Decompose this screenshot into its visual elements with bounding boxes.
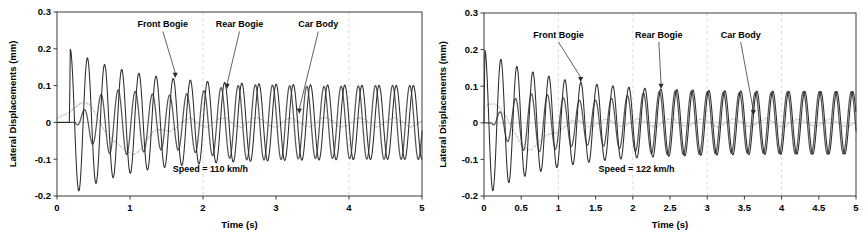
x-tick-label: 4 bbox=[346, 202, 352, 213]
front-bogie-callout-leader-line bbox=[163, 31, 175, 73]
x-tick-label: 5 bbox=[853, 202, 859, 213]
x-tick-label: 2.5 bbox=[663, 202, 677, 213]
x-tick-label: 4 bbox=[779, 202, 785, 213]
y-axis-title: Lateral Displacements (mm) bbox=[437, 41, 448, 168]
y-tick-label: 0.3 bbox=[38, 6, 51, 17]
y-tick-label: 0 bbox=[46, 117, 51, 128]
y-tick-label: 0 bbox=[473, 117, 478, 128]
front-bogie-callout-label: Front Bogie bbox=[533, 30, 584, 40]
front-bogie-callout-label: Front Bogie bbox=[138, 19, 189, 29]
y-axis-title: Lateral Displacements (mm) bbox=[7, 41, 18, 168]
chart-svg-right: 0.30.20.10-0.1-0.200.511.522.533.544.55T… bbox=[434, 0, 868, 245]
x-tick-label: 2 bbox=[200, 202, 205, 213]
x-tick-label: 0 bbox=[54, 202, 59, 213]
y-tick-label: -0.1 bbox=[35, 154, 52, 165]
front-bogie-callout-arrowhead-icon bbox=[173, 73, 178, 78]
front-bogie-callout-leader-line bbox=[558, 42, 580, 77]
x-tick-label: 2 bbox=[630, 202, 635, 213]
front-bogie-callout-arrowhead-icon bbox=[578, 77, 583, 82]
x-tick-label: 1 bbox=[127, 202, 133, 213]
x-axis-title: Time (s) bbox=[221, 219, 257, 230]
rear-bogie-callout-arrowhead-icon bbox=[224, 84, 229, 89]
car-body-callout-label: Car Body bbox=[721, 30, 761, 40]
y-tick-label: -0.2 bbox=[35, 190, 51, 201]
x-tick-label: 3.5 bbox=[738, 202, 752, 213]
speed-annotation: Speed = 122 km/h bbox=[599, 164, 675, 174]
rear-bogie-callout-leader-line bbox=[227, 31, 239, 84]
x-tick-label: 0 bbox=[481, 202, 486, 213]
x-tick-label: 0.5 bbox=[515, 202, 529, 213]
rear-bogie-callout-label: Rear Bogie bbox=[216, 19, 264, 29]
car-body-callout-arrowhead-icon bbox=[297, 108, 302, 113]
x-tick-label: 5 bbox=[419, 202, 425, 213]
y-tick-label: 0.1 bbox=[465, 81, 479, 92]
x-tick-label: 1 bbox=[556, 202, 562, 213]
chart-panel-right: 0.30.20.10-0.1-0.200.511.522.533.544.55T… bbox=[434, 0, 868, 245]
y-tick-label: 0.3 bbox=[465, 7, 478, 18]
x-tick-label: 1.5 bbox=[589, 202, 603, 213]
car-body-callout-label: Car Body bbox=[298, 19, 338, 29]
y-tick-label: 0.1 bbox=[38, 80, 52, 91]
speed-annotation: Speed = 110 km/h bbox=[173, 164, 248, 174]
y-tick-label: -0.2 bbox=[462, 190, 478, 201]
x-axis-title: Time (s) bbox=[652, 219, 688, 230]
rear-bogie-callout-arrowhead-icon bbox=[658, 84, 663, 89]
y-tick-label: 0.2 bbox=[38, 43, 51, 54]
y-tick-label: -0.1 bbox=[462, 154, 479, 165]
x-tick-label: 4.5 bbox=[812, 202, 826, 213]
rear-bogie-callout-leader-line bbox=[659, 42, 661, 84]
x-tick-label: 3 bbox=[705, 202, 710, 213]
y-tick-label: 0.2 bbox=[465, 44, 478, 55]
plot-left-root: 0.30.20.10-0.1-0.2012345Time (s)Lateral … bbox=[7, 6, 425, 230]
rear-bogie-callout-label: Rear Bogie bbox=[635, 30, 683, 40]
chart-svg-left: 0.30.20.10-0.1-0.2012345Time (s)Lateral … bbox=[0, 0, 434, 245]
figure-container: 0.30.20.10-0.1-0.2012345Time (s)Lateral … bbox=[0, 0, 868, 245]
chart-panel-left: 0.30.20.10-0.1-0.2012345Time (s)Lateral … bbox=[0, 0, 434, 245]
x-tick-label: 3 bbox=[273, 202, 278, 213]
plot-right-root: 0.30.20.10-0.1-0.200.511.522.533.544.55T… bbox=[437, 7, 859, 230]
